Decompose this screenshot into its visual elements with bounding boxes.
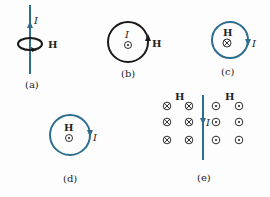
field-label: H: [223, 27, 232, 38]
panel-label: (d): [63, 173, 77, 184]
field-label-right: H: [225, 91, 234, 102]
current-label: I: [251, 38, 257, 49]
current-label: I: [205, 117, 211, 128]
panel-e: I H H (e): [163, 91, 243, 183]
panel-b: I H (b): [108, 22, 161, 79]
field-label: H: [48, 39, 57, 50]
panel-a: I H (a): [18, 5, 57, 90]
current-arrow-icon: [27, 21, 33, 28]
cross-in-icon: [223, 39, 231, 47]
panel-label: (a): [25, 79, 39, 90]
panel-c: H I (c): [212, 22, 257, 77]
panel-label: (b): [121, 68, 135, 79]
field-label-left: H: [175, 91, 184, 102]
panel-label: (e): [197, 172, 211, 183]
current-label: I: [124, 29, 130, 40]
cross-in-icon-grid: [163, 102, 193, 144]
panel-d: H I (d): [50, 115, 98, 184]
field-circle: [108, 22, 148, 62]
field-label: H: [64, 122, 73, 133]
panel-label: (c): [221, 66, 235, 77]
field-label: H: [152, 38, 161, 49]
current-label: I: [92, 132, 98, 143]
current-label: I: [33, 15, 39, 26]
magnetic-field-diagram: I H (a) I H (b) H I (c) H I (d): [0, 0, 270, 197]
current-arrow-icon: [245, 39, 251, 46]
dot-out-icon-grid: [212, 102, 243, 144]
